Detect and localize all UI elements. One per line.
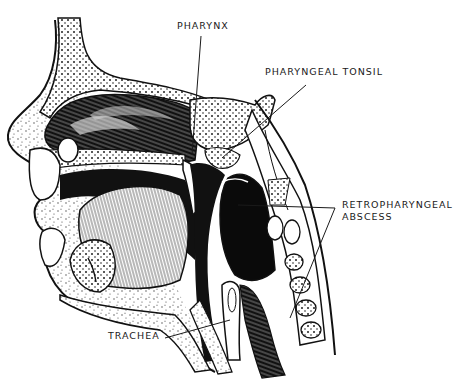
label-retropharyngeal: RETROPHARYNGEAL [342, 199, 453, 211]
label-pharynx: PHARYNX [177, 20, 229, 32]
upper-tooth [58, 138, 78, 162]
sagittal-head-neck-illustration [0, 0, 464, 382]
esophagus [240, 285, 285, 378]
label-trachea: TRACHEA [108, 330, 160, 342]
label-abscess: ABSCESS [342, 211, 393, 223]
label-pharyngeal-tonsil: PHARYNGEAL TONSIL [265, 66, 383, 78]
